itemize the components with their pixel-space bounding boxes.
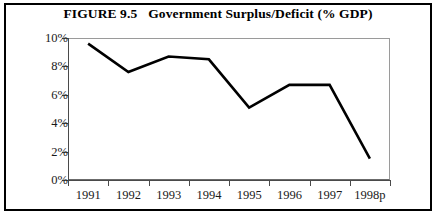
chart-plot-area: 0%2%4%6%8%10% 19911992199319941995199619… bbox=[0, 0, 436, 215]
data-line-series bbox=[0, 0, 436, 215]
series-line bbox=[88, 44, 370, 159]
figure-container: FIGURE 9.5Government Surplus/Deficit (% … bbox=[0, 0, 436, 215]
